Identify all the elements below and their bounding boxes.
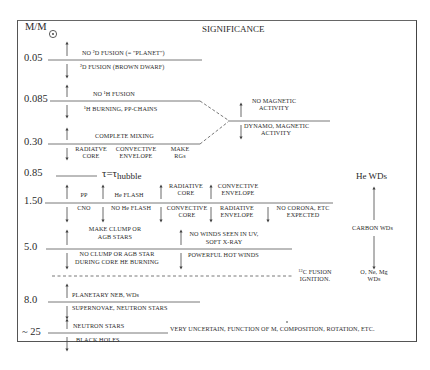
label-radiative-core-150: RADIATIVECORE [164,183,208,196]
mass-tick: 0.85 [24,168,42,179]
label-neutron-stars: NEUTRON STARS [73,323,124,329]
label-carbon-wds: CARBON WDs [352,225,393,231]
mass-tick: 0.05 [24,53,42,64]
label-he-wds: He WDs [356,172,387,181]
label-powerful-hot-winds: POWERFUL HOT WINDS [188,252,259,258]
label-make-clump: MAKE CLUMP OR AGB STARS [80,226,150,240]
label-o-ne-mg-wds: O, Ne, Mg WDs [356,269,392,282]
label-radiative-envelope-150: RADIATIVEENVELOPE [214,205,260,218]
label-make-rgs: MAKE RGs [168,146,192,159]
label-he-flash: He FLASH [107,192,151,198]
label-pp: PP [72,192,96,198]
axis-label: M/M [25,22,47,33]
label-convective-envelope: CONVECTIVE ENVELOPE [114,146,158,159]
label-black-holes: BLACK HOLES [76,337,120,343]
label-no-corona: NO CORONA, ETCEXPECTED [272,205,334,218]
label-complete-mixing: COMPLETE MIXING [95,133,154,139]
label-no-deuterium-fusion: NO ²D FUSION (= "PLANET") [82,50,165,56]
label-no-winds: NO WINDS SEEN IN UV, SOFT X-RAY [186,231,262,245]
mass-tick: 1.50 [24,196,42,207]
label-no-he-flash: NO He FLASH [106,205,156,211]
label-very-uncertain: VERY UNCERTAIN, FUNCTION OF M, COMPOSITI… [170,326,375,332]
page-title: SIGNIFICANCE [202,25,265,34]
label-dynamo-magnetic-activity: DYNAMO, MAGNETIC ACTIVITY [244,123,308,136]
label-deuterium-fusion: ²D FUSION (BROWN DWARF) [80,64,164,70]
label-radiative-core: RADIATVE CORE [73,146,109,159]
label-hydrogen-burning: ¹H BURNING, PP-CHAINS [84,106,157,112]
label-supernovae: SUPERNOVAE, NEUTRON STARS [72,305,168,311]
mass-tick: ~ 25 [22,327,41,338]
mass-tick: 8.0 [24,295,37,306]
label-cno: CNO [72,205,96,211]
mass-tick: 5.0 [24,242,37,253]
label-no-magnetic-activity: NO MAGNETIC ACTIVITY [246,98,302,111]
mass-tick: 0.085 [24,94,48,105]
mass-tick: 0.30 [24,137,42,148]
label-no-clump: NO CLUMP OR AGB STAR DURING CORE HE BURN… [72,251,162,265]
label-no-hydrogen-fusion: NO ¹H FUSION [93,91,135,97]
label-tau-hubble: τ=τhubble [102,168,142,179]
label-convective-envelope-150: CONVECTIVEENVELOPE [214,183,262,196]
label-convective-core-150: CONVECTIVECORE [163,205,211,218]
label-carbon-ignition: 12C FUSION IGNITION. [295,269,335,283]
label-planetary-nebula: PLANETARY NEB, WDs [72,292,139,298]
sun-symbol-icon [49,30,56,37]
